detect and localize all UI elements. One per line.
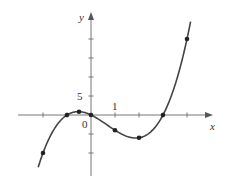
x-unit-label: 1 <box>112 100 118 112</box>
data-point <box>185 37 190 42</box>
origin-label: 0 <box>82 118 88 130</box>
x-axis-arrow-icon <box>205 112 213 118</box>
data-point <box>89 113 94 118</box>
data-point <box>113 128 118 133</box>
y-axis-arrow-icon <box>88 12 94 20</box>
data-points <box>41 37 190 156</box>
y-axis-label: y <box>78 11 84 23</box>
data-point <box>65 113 70 118</box>
data-point <box>137 136 142 141</box>
cubic-function-graph: x y 0 1 5 <box>0 0 227 186</box>
axes <box>18 12 213 176</box>
y-unit-label: 5 <box>77 90 83 102</box>
data-point <box>41 151 46 156</box>
data-point <box>161 113 166 118</box>
x-axis-label: x <box>209 120 215 132</box>
function-curve <box>38 22 190 168</box>
data-point <box>77 109 82 114</box>
